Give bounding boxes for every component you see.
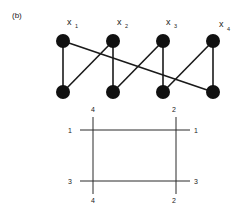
label-2-top: 2 <box>172 106 176 113</box>
label-3-right: 3 <box>194 178 198 185</box>
node-b4 <box>206 85 220 99</box>
node-x4 <box>206 34 220 48</box>
label-2-bottom: 2 <box>172 197 176 204</box>
node-label-x3: x <box>166 17 171 27</box>
label-4-top: 4 <box>91 106 95 113</box>
label-1-right: 1 <box>194 127 198 134</box>
node-x2 <box>106 34 120 48</box>
panel-label: (b) <box>12 11 22 20</box>
node-labels: x 1 x 2 x 3 x 4 <box>67 17 230 32</box>
edge-x3-b2 <box>113 41 163 92</box>
node-b2 <box>106 85 120 99</box>
node-label-x2: x <box>117 17 122 27</box>
node-sub-x1: 1 <box>75 23 78 29</box>
label-4-bottom: 4 <box>91 197 95 204</box>
node-x1 <box>56 34 70 48</box>
diagram-canvas: (b) x 1 x 2 x 3 x 4 <box>0 0 244 218</box>
edge-x2-b1 <box>63 41 113 92</box>
label-1-left: 1 <box>68 127 72 134</box>
edge-x4-b3 <box>163 41 213 92</box>
node-sub-x4: 4 <box>227 26 230 32</box>
node-label-x1: x <box>67 17 72 27</box>
node-sub-x3: 3 <box>174 23 177 29</box>
label-3-left: 3 <box>68 178 72 185</box>
node-sub-x2: 2 <box>125 23 128 29</box>
graph-edges <box>63 41 213 92</box>
node-b3 <box>156 85 170 99</box>
rectangle-lines <box>80 117 190 194</box>
node-b1 <box>56 85 70 99</box>
node-label-x4: x <box>219 19 224 29</box>
node-x3 <box>156 34 170 48</box>
rectangle-labels: 4 4 2 2 1 1 3 3 <box>68 106 198 204</box>
